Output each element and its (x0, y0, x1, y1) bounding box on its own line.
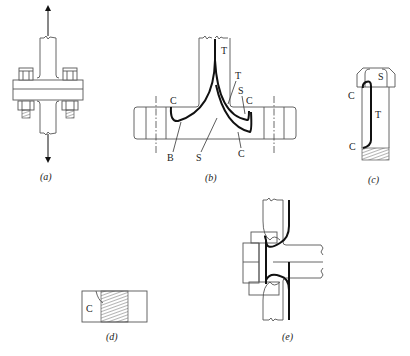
failure-mode-diagram: (a) T T S C C B S C (b) (0, 0, 410, 356)
clamp-bottom (249, 282, 279, 295)
nut-left (18, 101, 34, 110)
gasket-line-upper (265, 200, 289, 320)
lower-plate (37, 101, 59, 133)
bolt-head-left (19, 68, 33, 80)
crack-B (171, 39, 215, 121)
caption-c: (c) (368, 174, 380, 186)
nut-right (62, 101, 78, 110)
caption-d: (d) (106, 331, 118, 343)
label-C-bottom: C (238, 148, 245, 159)
bolt-head-e (243, 243, 259, 283)
upper-plate (37, 38, 59, 78)
label-C-top: C (348, 90, 355, 101)
panel-c: S C T C (c) (348, 68, 395, 186)
label-T-top: T (221, 45, 227, 56)
bolt-crack (363, 82, 371, 149)
caption-e: (e) (282, 331, 294, 343)
panel-d: C (d) (82, 291, 147, 343)
caption-a: (a) (40, 171, 52, 183)
thread-region (101, 291, 128, 322)
caption-b: (b) (205, 172, 217, 184)
stem-left-edge (196, 38, 199, 107)
label-S: S (378, 71, 384, 82)
flange (13, 80, 83, 100)
panel-e: (e) (243, 198, 323, 343)
label-S-bottom: S (196, 152, 202, 163)
label-C-bottom: C (349, 141, 356, 152)
label-S-right: S (238, 85, 244, 96)
label-C: C (86, 303, 93, 314)
panel-b: T T S C C B S C (b) (134, 36, 296, 184)
label-C-right: C (246, 95, 253, 106)
bolt-thread-left (22, 110, 30, 118)
label-T-right: T (235, 70, 241, 81)
label-C-left: C (170, 95, 177, 106)
label-B: B (167, 152, 174, 163)
panel-a: (a) (13, 8, 83, 183)
crack-C (216, 85, 251, 132)
label-T: T (375, 109, 381, 120)
gasket-line-lower (266, 275, 289, 320)
bolt-head-right (63, 68, 77, 80)
bolt-thread-right (66, 110, 74, 118)
bolt-thread (362, 148, 389, 160)
crack-S-upper (215, 60, 249, 120)
